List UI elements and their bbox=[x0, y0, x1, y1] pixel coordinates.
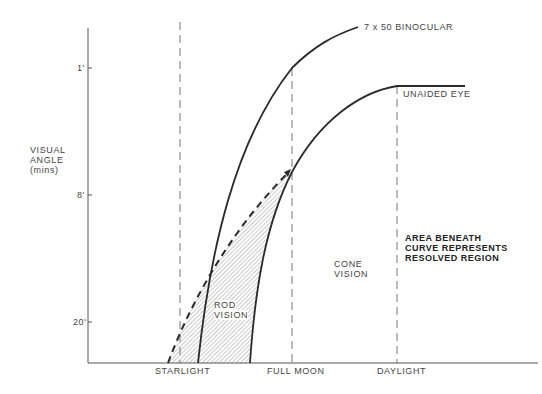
x-label-starlight: STARLIGHT bbox=[155, 366, 210, 376]
annotation-line2: CURVE REPRESENTS bbox=[405, 243, 508, 253]
y-axis-label-line3: (mins) bbox=[30, 165, 59, 175]
rod-vision-label-line2: VISION bbox=[214, 310, 248, 320]
annotation-line1: AREA BENEATH bbox=[405, 233, 482, 243]
unaided-eye-label: UNAIDED EYE bbox=[403, 89, 471, 99]
y-axis-label-line1: VISUAL bbox=[30, 145, 66, 155]
x-label-full-moon: FULL MOON bbox=[267, 366, 325, 376]
y-tick-label-1: 1' bbox=[77, 63, 85, 73]
y-axis-label-line2: ANGLE bbox=[30, 155, 64, 165]
annotation-line3: RESOLVED REGION bbox=[405, 253, 499, 263]
binocular-label: 7 x 50 BINOCULAR bbox=[364, 22, 453, 32]
x-label-daylight: DAYLIGHT bbox=[377, 366, 426, 376]
unaided-eye-curve bbox=[250, 86, 465, 363]
cone-vision-label-line2: VISION bbox=[334, 269, 368, 279]
y-tick-label-20: 20' bbox=[73, 317, 87, 327]
rod-vision-label-line1: ROD bbox=[214, 300, 236, 310]
cone-vision-label-line1: CONE bbox=[334, 259, 362, 269]
y-tick-label-8: 8' bbox=[77, 190, 85, 200]
